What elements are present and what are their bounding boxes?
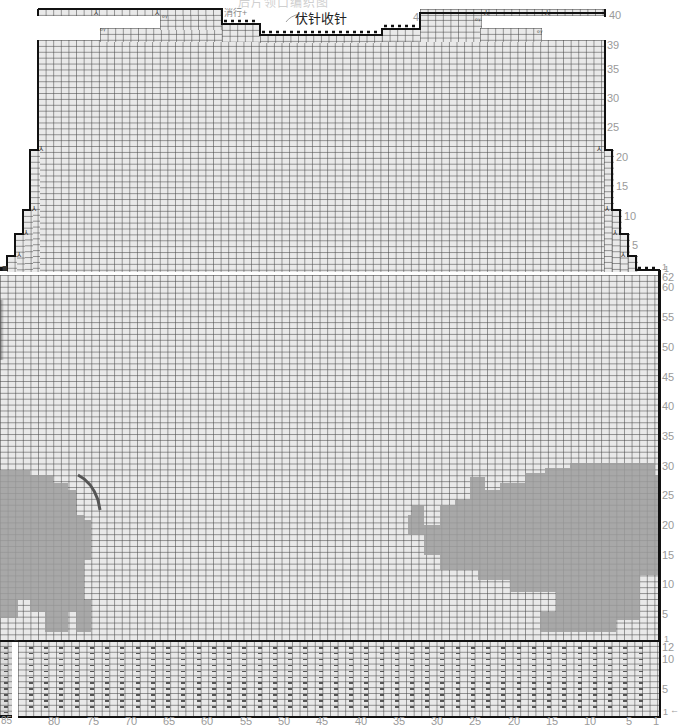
decrease-icon: ⅄: [545, 10, 549, 17]
wrap-icon: ᵒᵞ: [100, 28, 106, 35]
row-label-rib-1: 1: [663, 707, 668, 718]
row-label-body-30: 30: [662, 461, 674, 472]
row-label-yoke-20: 20: [616, 152, 628, 163]
elephant-motif: [0, 470, 91, 632]
row-label-yoke-39: 39: [607, 40, 619, 51]
stitch-label-20: 20: [508, 715, 520, 727]
wrap-icon: ᵒᵞ: [537, 30, 543, 37]
decrease-icon: ⅄: [597, 146, 601, 153]
stitch-label-30: 30: [431, 715, 443, 727]
knitting-chart: 后片领口编织图 2: [0, 0, 686, 728]
stitch-label-5: 5: [626, 715, 632, 727]
row-label-body-5: 5: [662, 609, 668, 620]
row-label-body-35: 35: [662, 431, 674, 442]
row-label-yoke-25: 25: [607, 122, 619, 133]
stitch-label-70: 70: [125, 715, 137, 727]
bind-off-dots: [0, 21, 657, 268]
stitch-label-45: 45: [316, 715, 328, 727]
decrease-icon: ⅄: [605, 206, 609, 213]
row-label-yoke-30: 30: [607, 93, 619, 104]
row-label-body-50: 50: [662, 342, 674, 353]
row-label-body-25: 25: [662, 490, 674, 501]
decrease-row-label: 消行+: [224, 8, 247, 19]
row-direction-arrow: ←: [670, 705, 679, 716]
row-label-body-45: 45: [662, 372, 674, 383]
row-label-rib-10: 10: [662, 654, 674, 665]
decrease-icon: ⅄: [613, 230, 617, 237]
decrease-icon: ⅄: [155, 10, 159, 17]
row-label-body-10: 10: [662, 579, 674, 590]
page-gutter-shadow: [0, 300, 4, 360]
row-label-yoke-10: 10: [624, 211, 636, 222]
stitch-label-60: 60: [201, 715, 213, 727]
decrease-icon: ⅄: [32, 206, 36, 213]
stitch-label-10: 10: [584, 715, 596, 727]
row-label-yoke-15: 15: [616, 181, 628, 192]
decrease-icon: ⅄: [17, 252, 21, 259]
row-label-yoke-40: 40: [609, 10, 621, 21]
stitch-label-80: 80: [48, 715, 60, 727]
stitch-label-1: 1: [653, 715, 659, 727]
bind-off-label: 伏针收针: [295, 8, 347, 27]
stitch-label-25: 25: [469, 715, 481, 727]
stitch-label-55: 55: [240, 715, 252, 727]
row-label-yoke-5: 5: [632, 240, 638, 251]
row-label-body-15: 15: [662, 550, 674, 561]
stitch-label-50: 50: [278, 715, 290, 727]
chart-overlay: [0, 0, 686, 728]
row-label-yoke-35: 35: [607, 64, 619, 75]
elephant-tail: [78, 475, 100, 510]
stitch-label-85: 85: [1, 715, 12, 726]
wrap-icon: ᵒᵞ: [475, 18, 481, 25]
shoulder-number-label: 4: [413, 12, 419, 23]
stitch-label-65: 65: [163, 715, 175, 727]
rhino-motif: [408, 463, 659, 632]
stitch-label-40: 40: [355, 715, 367, 727]
row-label-body-20: 20: [662, 520, 674, 531]
decrease-icon: ⅄: [94, 10, 98, 17]
row-label-body-40: 40: [662, 401, 674, 412]
stitch-label-15: 15: [546, 715, 558, 727]
wrap-icon: ᵒᵞ: [162, 15, 168, 22]
stitch-label-75: 75: [87, 715, 99, 727]
row-label-body-60: 60: [662, 282, 674, 293]
row-label-body-55: 55: [662, 312, 674, 323]
decrease-icon: ⅄: [484, 10, 488, 17]
decrease-icon: ⅄: [39, 146, 43, 153]
row-label-rib-12: 12: [662, 642, 674, 653]
decrease-icon: ⅄: [621, 252, 625, 259]
row-label-rib-5: 5: [662, 684, 668, 695]
dot-marker-icon: ■: [2, 264, 8, 271]
stitch-label-35: 35: [393, 715, 405, 727]
decrease-icon: ⅄: [24, 230, 28, 237]
